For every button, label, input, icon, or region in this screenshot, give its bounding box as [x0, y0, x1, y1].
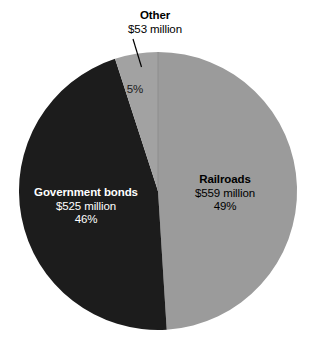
slice-label-railroads-value: $559 million [168, 187, 282, 201]
slice-label-railroads: Railroads $559 million 49% [168, 173, 282, 214]
slice-label-railroads-title: Railroads [168, 173, 282, 187]
slice-label-other-title: Other [0, 9, 310, 23]
slice-label-railroads-percent: 49% [168, 200, 282, 214]
slice-label-other-percent: 5% [105, 83, 165, 97]
slice-label-government-bonds-value: $525 million [23, 200, 149, 214]
slice-label-other-value: $53 million [0, 23, 310, 37]
slice-label-government-bonds-percent: 46% [23, 213, 149, 227]
slice-label-other-percent-wrap: 5% [105, 83, 165, 97]
pie-chart: Other $53 million 5% Railroads $559 mill… [0, 0, 310, 350]
slice-label-government-bonds: Government bonds $525 million 46% [23, 186, 149, 227]
slice-label-other: Other $53 million [0, 9, 310, 36]
slice-label-government-bonds-title: Government bonds [23, 186, 149, 200]
